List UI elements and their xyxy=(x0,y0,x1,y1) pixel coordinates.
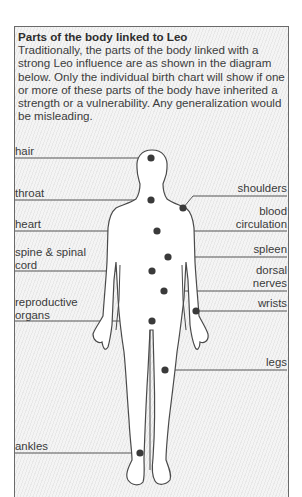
label-reproductive-line2: organs xyxy=(15,309,78,322)
label-dorsal-line2: nerves xyxy=(253,277,287,290)
label-hair: hair xyxy=(15,145,34,158)
label-wrists: wrists xyxy=(258,297,287,310)
throat-dot xyxy=(147,196,154,203)
label-spleen: spleen xyxy=(253,243,287,256)
label-reproductive: reproductive organs xyxy=(15,296,78,321)
label-reproductive-line1: reproductive xyxy=(15,296,78,309)
label-spine: spine & spinal cord xyxy=(15,246,86,271)
legs-dot xyxy=(161,366,168,373)
label-blood-line1: blood xyxy=(236,205,287,218)
label-spine-line2: cord xyxy=(15,259,86,272)
label-legs: legs xyxy=(266,356,287,369)
reproductive-dot xyxy=(148,317,155,324)
spleen-dot xyxy=(164,253,171,260)
label-heart: heart xyxy=(15,218,41,231)
label-ankles: ankles xyxy=(15,440,48,453)
label-blood-line2: circulation xyxy=(236,218,287,231)
label-spine-line1: spine & spinal xyxy=(15,246,86,259)
shoulders-dot xyxy=(179,204,186,211)
label-dorsal-line1: dorsal xyxy=(253,264,287,277)
dorsal-nerves-dot xyxy=(160,287,167,294)
ankles-dot xyxy=(136,449,143,456)
label-blood-circulation: blood circulation xyxy=(236,205,287,230)
label-throat: throat xyxy=(15,187,44,200)
wrists-dot xyxy=(192,307,199,314)
spine-dot xyxy=(148,267,155,274)
label-shoulders: shoulders xyxy=(238,182,287,195)
heart-dot xyxy=(153,227,160,234)
hair-dot xyxy=(147,154,154,161)
label-dorsal-nerves: dorsal nerves xyxy=(253,264,287,289)
